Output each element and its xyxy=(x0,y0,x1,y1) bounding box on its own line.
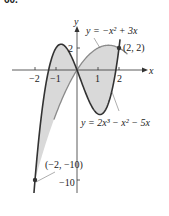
chart: x y −2 −1 1 2 2 −10 y = −x² + 3x y = 2x³… xyxy=(0,0,169,216)
y-axis-label: y xyxy=(73,16,79,27)
ytick-label-neg10: −10 xyxy=(59,177,75,188)
point-label-leader xyxy=(36,172,55,182)
xtick-label-neg2: −2 xyxy=(29,73,40,84)
xtick-label-1: 1 xyxy=(95,73,100,84)
annotation-neg2-neg10: (−2, −10) xyxy=(45,159,83,171)
annotation-2-2: (2, 2) xyxy=(123,42,145,54)
xtick-label-2: 2 xyxy=(117,73,122,84)
x-axis-label: x xyxy=(148,65,154,76)
parabola-label-leader xyxy=(94,38,100,48)
parabola-equation-label: y = −x² + 3x xyxy=(85,25,138,36)
point-neg2-neg10 xyxy=(33,178,37,182)
point-2-2 xyxy=(117,46,121,50)
xtick-label-neg1: −1 xyxy=(50,73,61,84)
ytick-label-2: 2 xyxy=(68,43,73,54)
cubic-label-leader xyxy=(112,92,119,111)
x-axis-arrow-icon xyxy=(142,68,148,73)
cubic-equation-label: y = 2x³ − x² − 5x xyxy=(80,117,151,128)
